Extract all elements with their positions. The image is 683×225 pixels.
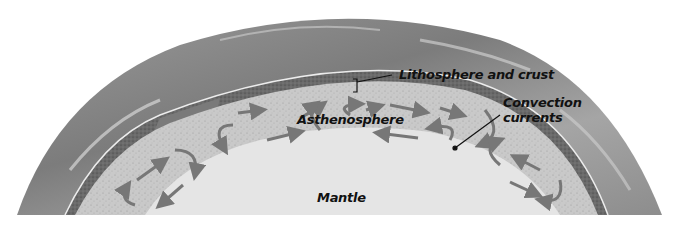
earth-cross-section-diagram: Lithosphere and crust Convection current… [0, 0, 683, 225]
label-mantle: Mantle [317, 190, 366, 205]
label-currents: currents [503, 110, 562, 125]
label-lithosphere-and-crust: Lithosphere and crust [399, 67, 554, 82]
label-asthenosphere: Asthenosphere [297, 112, 404, 127]
label-convection: Convection [503, 95, 582, 110]
